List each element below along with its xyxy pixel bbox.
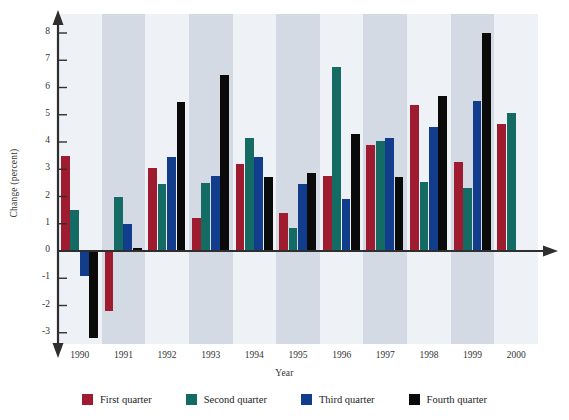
- x-tick-label: 1998: [409, 350, 449, 360]
- bar-chart: 876543210-1-2-3 199019911992199319941995…: [0, 0, 569, 420]
- x-tick-label: 1996: [322, 350, 362, 360]
- y-tick-label: 1: [28, 217, 50, 227]
- legend-swatch-icon: [186, 394, 197, 405]
- y-tick-label: 3: [28, 162, 50, 172]
- x-tick-label: 2000: [496, 350, 536, 360]
- chart-legend: First quarterSecond quarterThird quarter…: [0, 394, 569, 405]
- y-axis-arrow-up: [53, 10, 64, 25]
- legend-swatch-icon: [82, 394, 93, 405]
- y-tick-label: -3: [28, 326, 50, 336]
- x-tick-label: 1994: [234, 350, 274, 360]
- x-axis-arrow-right: [543, 246, 558, 257]
- x-tick-label: 1997: [365, 350, 405, 360]
- x-tick-label: 1999: [453, 350, 493, 360]
- y-tick-label: 8: [28, 26, 50, 36]
- x-axis-title: Year: [0, 368, 569, 378]
- y-tick-label: -2: [28, 299, 50, 309]
- legend-item[interactable]: Third quarter: [301, 394, 375, 405]
- x-tick-label: 1995: [278, 350, 318, 360]
- x-tick-label: 1991: [103, 350, 143, 360]
- x-tick-label: 1992: [147, 350, 187, 360]
- legend-item[interactable]: Second quarter: [186, 394, 267, 405]
- y-tick-label: 7: [28, 53, 50, 63]
- y-tick-label: 5: [28, 108, 50, 118]
- y-tick-label: 0: [28, 244, 50, 254]
- y-tick-label: 6: [28, 81, 50, 91]
- legend-label: Third quarter: [319, 394, 375, 405]
- legend-swatch-icon: [409, 394, 420, 405]
- legend-item[interactable]: First quarter: [82, 394, 152, 405]
- legend-label: Second quarter: [204, 394, 267, 405]
- legend-label: Fourth quarter: [427, 394, 487, 405]
- y-tick-label: 2: [28, 190, 50, 200]
- legend-item[interactable]: Fourth quarter: [409, 394, 487, 405]
- legend-label: First quarter: [100, 394, 152, 405]
- legend-swatch-icon: [301, 394, 312, 405]
- y-tick-label: -1: [28, 271, 50, 281]
- x-tick-label: 1990: [60, 350, 100, 360]
- x-tick-label: 1993: [191, 350, 231, 360]
- y-axis-title: Change (percent): [9, 123, 19, 243]
- y-tick-label: 4: [28, 135, 50, 145]
